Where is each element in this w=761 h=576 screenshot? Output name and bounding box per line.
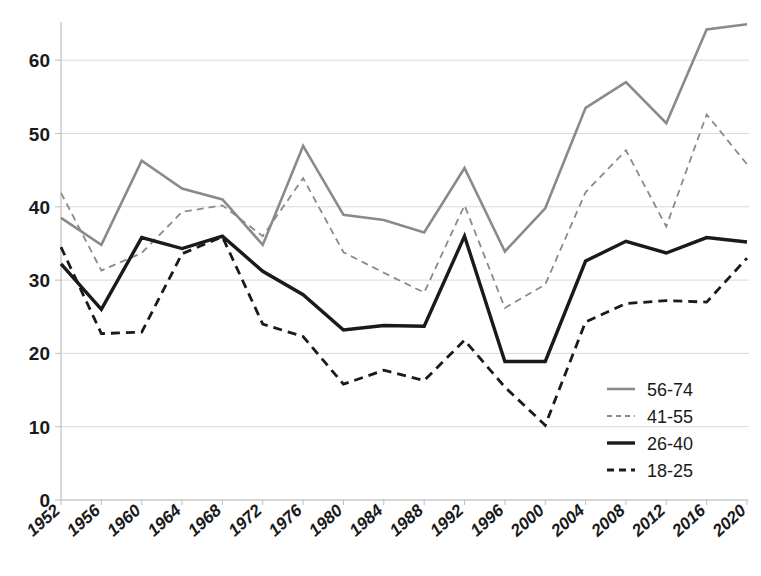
line-chart: 0102030405060 19521956196019641968197219… <box>0 0 761 576</box>
series-line-26-40 <box>61 236 747 361</box>
x-tick-label: 1992 <box>426 500 467 540</box>
legend-label-26-40: 26-40 <box>647 434 693 454</box>
y-tick-label: 50 <box>29 124 50 145</box>
x-tick-label: 1976 <box>265 500 306 540</box>
chart-canvas: 0102030405060 19521956196019641968197219… <box>0 0 761 576</box>
y-tick-label: 10 <box>29 417 50 438</box>
legend-label-56-74: 56-74 <box>647 380 693 400</box>
x-tickmarks-group <box>61 500 747 505</box>
x-tick-label: 1964 <box>144 500 185 540</box>
x-tick-label: 1980 <box>305 500 346 540</box>
gridlines-group <box>61 60 749 500</box>
y-axis-tick-labels: 0102030405060 <box>29 50 61 511</box>
y-tick-label: 30 <box>29 270 50 291</box>
x-tick-label: 1960 <box>104 500 145 540</box>
x-tick-label: 1984 <box>346 500 387 540</box>
legend-label-18-25: 18-25 <box>647 461 693 481</box>
x-tick-label: 1952 <box>23 500 64 540</box>
x-tick-label: 1968 <box>184 500 225 540</box>
x-tick-label: 2016 <box>668 500 710 540</box>
x-tick-label: 1988 <box>386 500 427 540</box>
series-line-41-55 <box>61 114 747 308</box>
legend-label-41-55: 41-55 <box>647 407 693 427</box>
x-tick-label: 2008 <box>587 500 629 540</box>
x-tick-label: 2020 <box>708 500 750 540</box>
x-axis-tick-labels: 1952195619601964196819721976198019841988… <box>23 500 750 540</box>
axes-group <box>61 22 747 500</box>
data-series-group <box>61 24 747 425</box>
x-tick-label: 2000 <box>506 500 548 540</box>
y-tick-label: 60 <box>29 50 50 71</box>
x-tick-label: 1956 <box>63 500 104 540</box>
x-tick-label: 2004 <box>547 500 589 540</box>
x-tick-label: 1996 <box>467 500 508 540</box>
chart-legend: 56-7441-5526-4018-25 <box>607 380 693 481</box>
series-line-56-74 <box>61 24 747 251</box>
y-tick-label: 20 <box>29 343 50 364</box>
series-line-18-25 <box>61 237 747 425</box>
x-tick-label: 1972 <box>225 500 266 540</box>
y-tick-label: 40 <box>29 197 50 218</box>
x-tick-label: 2012 <box>627 500 669 540</box>
